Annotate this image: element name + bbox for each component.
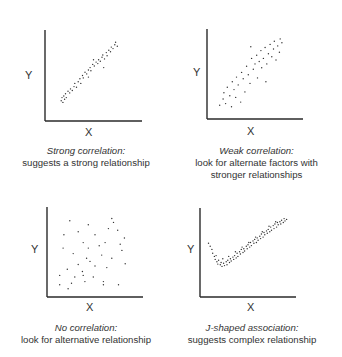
data-point bbox=[271, 230, 272, 231]
data-point bbox=[262, 231, 263, 232]
data-point bbox=[236, 257, 237, 258]
data-point bbox=[216, 261, 217, 262]
data-point bbox=[274, 223, 275, 224]
data-point bbox=[262, 236, 263, 237]
data-point bbox=[243, 248, 244, 249]
data-point bbox=[247, 244, 248, 245]
data-point bbox=[234, 255, 235, 256]
data-point bbox=[211, 249, 212, 250]
data-point bbox=[268, 226, 269, 227]
data-point bbox=[270, 226, 271, 227]
data-point bbox=[259, 236, 260, 237]
data-point bbox=[254, 239, 255, 240]
data-point bbox=[278, 224, 279, 225]
data-point bbox=[221, 266, 222, 267]
data-point bbox=[217, 263, 218, 264]
data-point bbox=[268, 229, 269, 230]
data-point bbox=[283, 218, 284, 219]
data-point bbox=[261, 233, 262, 234]
data-point bbox=[230, 258, 231, 259]
data-point bbox=[283, 222, 284, 223]
data-point bbox=[224, 265, 225, 266]
data-point bbox=[220, 264, 221, 265]
data-point bbox=[210, 246, 211, 247]
data-point bbox=[250, 242, 251, 243]
data-point bbox=[279, 221, 280, 222]
data-point bbox=[244, 250, 245, 251]
data-point bbox=[256, 242, 257, 243]
data-point bbox=[232, 256, 233, 257]
data-point bbox=[208, 243, 209, 244]
data-point bbox=[246, 246, 247, 247]
data-point bbox=[251, 245, 252, 246]
data-point bbox=[286, 219, 287, 220]
data-point bbox=[252, 240, 253, 241]
data-point bbox=[231, 260, 232, 261]
data-point bbox=[218, 260, 219, 261]
data-point bbox=[223, 263, 224, 264]
data-point bbox=[241, 246, 242, 247]
data-point bbox=[281, 220, 282, 221]
data-point bbox=[257, 240, 258, 241]
data-point bbox=[215, 255, 216, 256]
data-point bbox=[273, 228, 274, 229]
data-point bbox=[275, 221, 276, 222]
data-point bbox=[233, 259, 234, 260]
data-point bbox=[220, 262, 221, 263]
data-point bbox=[239, 251, 240, 252]
data-point bbox=[284, 220, 285, 221]
data-point bbox=[212, 253, 213, 254]
data-point bbox=[249, 246, 250, 247]
data-point bbox=[226, 261, 227, 262]
data-point bbox=[235, 251, 236, 252]
data-point bbox=[267, 233, 268, 234]
caption-title: J-shaped association: bbox=[166, 322, 338, 334]
data-point bbox=[222, 258, 223, 259]
x-axis-label: X bbox=[247, 302, 254, 313]
data-point bbox=[257, 237, 258, 238]
data-point bbox=[237, 256, 238, 257]
data-point bbox=[226, 264, 227, 265]
data-point bbox=[240, 253, 241, 254]
data-point bbox=[247, 248, 248, 249]
data-point bbox=[253, 243, 254, 244]
data-point bbox=[277, 222, 278, 223]
data-point bbox=[248, 242, 249, 243]
scatter-plot-jshaped bbox=[0, 0, 342, 357]
data-point bbox=[215, 259, 216, 260]
data-point bbox=[263, 232, 264, 233]
y-axis-label: Y bbox=[187, 244, 194, 255]
data-point bbox=[227, 260, 228, 261]
data-point bbox=[280, 223, 281, 224]
data-point bbox=[266, 230, 267, 231]
data-point bbox=[269, 231, 270, 232]
data-point bbox=[255, 236, 256, 237]
data-point bbox=[276, 226, 277, 227]
data-point bbox=[214, 256, 215, 257]
caption-jshaped: J-shaped association: suggests complex r… bbox=[166, 322, 338, 346]
data-point bbox=[242, 252, 243, 253]
data-point bbox=[236, 253, 237, 254]
data-point bbox=[228, 256, 229, 257]
data-point bbox=[264, 234, 265, 235]
data-point bbox=[241, 249, 242, 250]
data-point bbox=[229, 262, 230, 263]
data-point bbox=[260, 238, 261, 239]
data-point bbox=[273, 225, 274, 226]
caption-description: suggests complex relationship bbox=[166, 334, 338, 346]
